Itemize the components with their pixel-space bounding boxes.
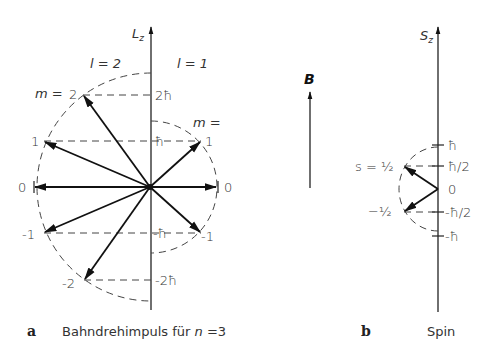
m-value-l2-2: 2 xyxy=(69,87,77,102)
spin-vector-up xyxy=(405,167,438,189)
m-value-l1-m1: -1 xyxy=(201,229,214,244)
m-value-l1-1: 1 xyxy=(205,134,213,149)
panel-b-letter: b xyxy=(361,323,371,339)
panel-a-caption: Bahndrehimpuls für n =3 xyxy=(62,324,226,339)
tick-label-h: ħ xyxy=(155,134,164,149)
panel-a-letter: a xyxy=(27,323,36,339)
tick-label-minus-h: -ħ xyxy=(153,226,167,241)
m-value-l2-1: 1 xyxy=(31,134,39,149)
m-label-l2: m = xyxy=(35,86,63,101)
minus-half-label: −½ xyxy=(368,204,392,219)
m-value-l2-m2: -2 xyxy=(62,276,75,291)
s-label: s = ½ xyxy=(355,159,394,174)
panel-b-caption: Spin xyxy=(427,324,455,339)
angular-momentum-diagram: Lz l = 2 l = 1 m = m = 2 1 0 -1 -2 xyxy=(0,0,496,351)
spin-circle xyxy=(399,147,438,231)
m-value-l2-0: 0 xyxy=(18,180,26,195)
magnetic-field: B xyxy=(304,71,315,188)
panel-a-orbital: Lz l = 2 l = 1 m = m = 2 1 0 -1 -2 xyxy=(18,26,232,339)
tick-label-minus-h: -ħ xyxy=(445,229,459,244)
l2-label: l = 2 xyxy=(90,56,121,71)
tick-label-h: ħ xyxy=(448,138,457,153)
tick-label-minus-2h: -2ħ xyxy=(155,273,177,288)
spin-vector-down xyxy=(405,189,438,211)
sz-axis-label: Sz xyxy=(420,28,433,45)
l1-label: l = 1 xyxy=(177,56,208,71)
m-value-l2-m1: -1 xyxy=(22,227,35,242)
origin-point xyxy=(147,184,153,190)
panel-b-spin: Sz ħ ħ/2 0 -ħ/2 -ħ s = ½ −½ b Spin xyxy=(355,27,471,339)
origin-label: 0 xyxy=(448,182,456,197)
tick-label-minus-h-half: -ħ/2 xyxy=(445,205,471,220)
tick-label-2h: 2ħ xyxy=(155,88,172,103)
lz-axis-label: Lz xyxy=(132,26,144,43)
m-value-l1-0: 0 xyxy=(224,180,232,195)
m-label-l1: m = xyxy=(193,115,221,130)
b-field-label: B xyxy=(304,71,315,87)
tick-label-h-half: ħ/2 xyxy=(448,159,470,174)
